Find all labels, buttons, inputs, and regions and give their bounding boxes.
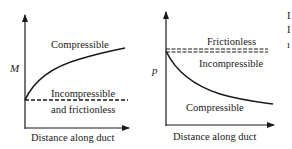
mach-panel: M Compressible Incompressible and fricti…: [9, 15, 129, 143]
edge-fragment-2: I: [287, 24, 291, 35]
pressure-x-label: Distance along duct: [173, 131, 256, 142]
mach-y-label: M: [9, 62, 20, 74]
mach-compressible-label: Compressible: [51, 39, 109, 50]
duct-flow-diagram: M Compressible Incompressible and fricti…: [0, 0, 292, 149]
pressure-panel: p Frictionless Incompressible Compressib…: [151, 12, 274, 142]
pressure-compressible-label: Compressible: [186, 102, 244, 113]
edge-fragment-3: ı: [287, 39, 290, 50]
pressure-incompressible-label: Incompressible: [199, 58, 263, 69]
mach-x-label: Distance along duct: [31, 132, 114, 143]
mach-incompressible-label-1: Incompressible: [51, 88, 115, 99]
pressure-frictionless-label: Frictionless: [207, 36, 256, 47]
mach-incompressible-label-2: and frictionless: [51, 104, 115, 115]
edge-fragment-1: I: [287, 10, 291, 21]
pressure-y-label: p: [151, 64, 158, 76]
edge-text-fragments: I I ı: [287, 10, 291, 50]
